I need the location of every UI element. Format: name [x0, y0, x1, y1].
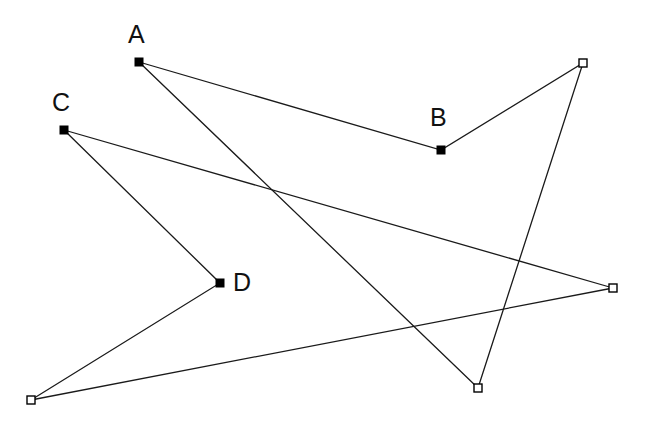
edges-group [31, 62, 613, 400]
vertex-marker-a[interactable] [135, 58, 143, 66]
vertex-label-b: B [430, 105, 447, 130]
vertex-marker-p1[interactable] [579, 59, 587, 67]
vertex-marker-d[interactable] [216, 279, 224, 287]
polyline-path-filled [139, 62, 583, 388]
vertex-label-c: C [52, 90, 70, 115]
vertex-marker-c[interactable] [60, 126, 68, 134]
vertex-label-a: A [128, 22, 145, 47]
vertex-marker-p2[interactable] [474, 384, 482, 392]
polyline-path-open [31, 130, 613, 400]
vertex-label-d: D [233, 270, 251, 295]
diagram-canvas: ABCD [0, 0, 648, 422]
diagram-svg [0, 0, 648, 422]
vertex-marker-b[interactable] [437, 146, 445, 154]
vertex-marker-p3[interactable] [609, 284, 617, 292]
vertex-marker-p4[interactable] [27, 396, 35, 404]
